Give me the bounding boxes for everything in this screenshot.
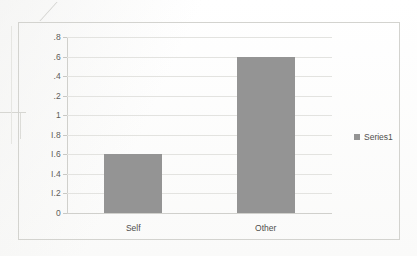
y-axis-label-0.6: I.6 [51, 149, 61, 159]
plot-area: .8.6.4.21I.8I.6I.4I.20 [67, 37, 332, 213]
gridline-1.8 [67, 37, 332, 38]
y-axis-label-1: 1 [56, 110, 61, 120]
y-axis-label-0.4: I.4 [51, 169, 61, 179]
y-axis-tick-0.4 [63, 174, 67, 175]
x-axis-label-other: Other [255, 223, 276, 233]
y-axis-label-1.2: .2 [54, 91, 62, 101]
gridline-0 [67, 213, 332, 214]
y-axis-label-0.8: I.8 [51, 130, 61, 140]
chart-frame: .8.6.4.21I.8I.6I.4I.20 SelfOther Series1 [18, 22, 400, 240]
y-axis-tick-0.2 [63, 193, 67, 194]
y-axis-label-1.8: .8 [54, 32, 62, 42]
y-axis-label-0.2: I.2 [51, 188, 61, 198]
bar-other [237, 57, 295, 213]
y-axis-tick-1.6 [63, 57, 67, 58]
y-axis-label-1.6: .6 [54, 52, 62, 62]
y-axis-label-1.4: .4 [54, 71, 62, 81]
y-axis-tick-0.8 [63, 135, 67, 136]
y-axis-tick-1.8 [63, 37, 67, 38]
y-axis-tick-0.6 [63, 154, 67, 155]
y-axis-tick-1.2 [63, 96, 67, 97]
chart-legend: Series1 [354, 132, 393, 142]
scan-artifact-diagonal-line [39, 2, 79, 21]
x-axis-label-self: Self [126, 223, 141, 233]
scanned-page: .8.6.4.21I.8I.6I.4I.20 SelfOther Series1 [0, 0, 417, 256]
legend-square-marker-icon [354, 134, 360, 140]
y-axis-tick-1.4 [63, 76, 67, 77]
y-axis-tick-1 [63, 115, 67, 116]
scan-artifact-vertical-crease [11, 26, 12, 144]
y-axis-label-0: 0 [56, 208, 61, 218]
bar-self [104, 154, 162, 213]
y-axis-tick-0 [63, 213, 67, 214]
y-axis-line [67, 37, 68, 213]
legend-label-series1: Series1 [364, 132, 393, 142]
